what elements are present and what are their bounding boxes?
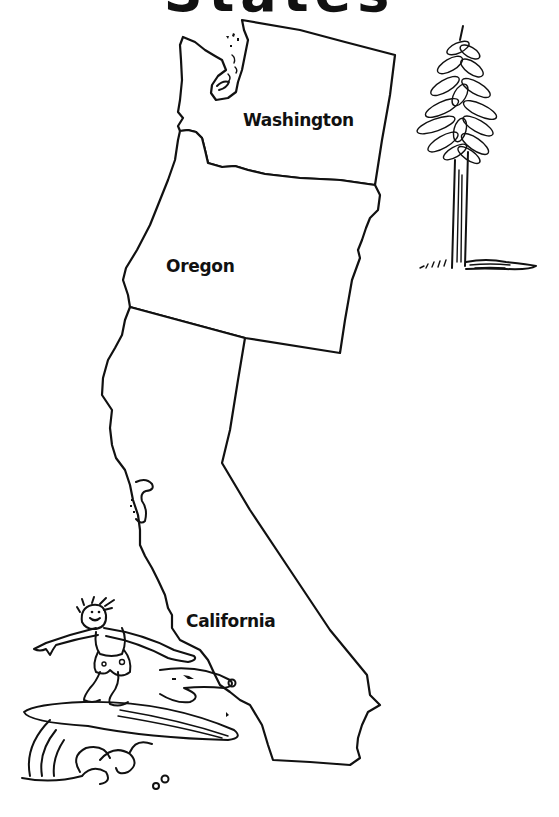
state-washington bbox=[178, 20, 395, 185]
label-oregon: Oregon bbox=[166, 256, 235, 276]
state-california bbox=[102, 307, 380, 765]
label-california: California bbox=[186, 611, 275, 631]
label-washington: Washington bbox=[243, 110, 354, 130]
redwood-tree-illustration bbox=[415, 26, 536, 269]
coloring-page: States bbox=[0, 0, 559, 817]
